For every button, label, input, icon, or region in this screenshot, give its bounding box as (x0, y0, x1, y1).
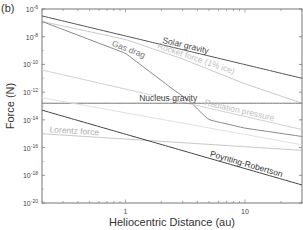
y-tick-label: 10-8 (26, 32, 38, 41)
label-poynting-robertson: Poynting-Robertson (209, 149, 284, 179)
y-tick-label: 10-16 (23, 143, 38, 152)
label-lorentz-force: Lorentz force (49, 124, 99, 137)
x-tick-label: 10 (241, 208, 249, 215)
panel-label: (b) (1, 2, 14, 14)
series-line-rocket-force-1-ice (42, 21, 302, 103)
y-axis-title: Force (N) (4, 83, 16, 129)
y-tick-label: 10-20 (23, 198, 38, 207)
label-radiation-pressure: Radiation pressure (204, 97, 276, 123)
y-tick-label: 10-18 (23, 170, 38, 179)
y-tick-label: 10-12 (23, 87, 38, 96)
label-nucleus-gravity: Nucleus gravity (139, 93, 198, 103)
label-gas-drag: Gas drag (111, 38, 147, 60)
force-vs-distance-chart: (b) 10-610-810-1010-1210-1410-1610-1810-… (0, 0, 303, 230)
series-labels: Solar gravityRocket force (1% ice)Gas dr… (49, 35, 284, 179)
y-tick-label: 10-10 (23, 59, 38, 68)
x-tick-label: 1 (124, 208, 128, 215)
y-tick-label: 10-14 (23, 115, 38, 124)
x-axis-title: Heliocentric Distance (au) (109, 216, 235, 228)
y-tick-label: 10-6 (26, 4, 38, 13)
